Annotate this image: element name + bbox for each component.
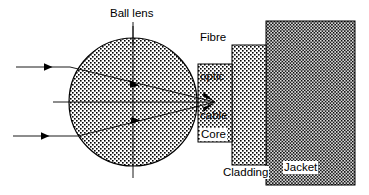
label-fibre-optic-cable-line2: optic (200, 70, 228, 83)
lower-incoming-arrowhead (41, 132, 50, 140)
upper-incoming-arrowhead (44, 63, 53, 71)
label-jacket: Jacket (283, 161, 318, 174)
label-core: Core (200, 128, 227, 141)
label-cladding: Cladding (222, 166, 269, 179)
cladding-shape (232, 45, 266, 165)
label-fibre-optic-cable-line3: cable (200, 109, 228, 122)
label-ball-lens: Ball lens (110, 7, 153, 20)
diagram-canvas: Ball lens Fibre optic cable Core Claddin… (0, 0, 369, 195)
label-fibre-optic-cable: Fibre optic cable (200, 5, 228, 148)
label-fibre-optic-cable-line1: Fibre (200, 31, 228, 44)
incoming-rays (13, 63, 78, 140)
